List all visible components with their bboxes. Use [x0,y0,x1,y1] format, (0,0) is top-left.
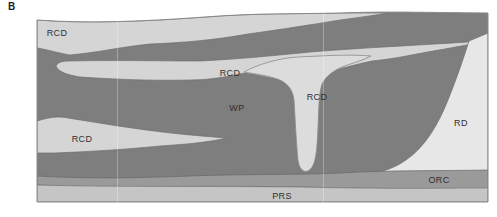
label-rcd-middle-band: RCD [220,69,241,78]
label-rcd-lower-tongue: RCD [72,135,93,144]
label-orc: ORC [428,176,449,185]
label-prs: PRS [272,192,292,201]
label-wp: WP [229,104,244,113]
label-rd: RD [454,119,468,128]
label-rcd-top-band: RCD [47,29,68,38]
scan-artifact-line [323,0,324,217]
scan-artifact-line [117,0,118,217]
cross-section-drawing [0,0,497,217]
label-rcd-funnel: RCD [307,93,328,102]
figure-panel: B R [0,0,497,217]
